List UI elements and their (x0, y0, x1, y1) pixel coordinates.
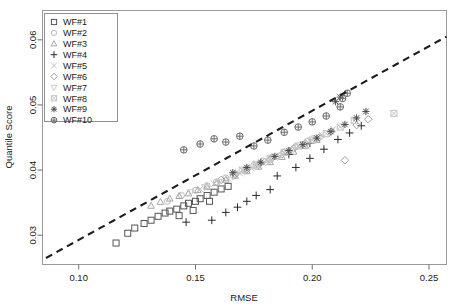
y-tick-label: 0.05 (27, 96, 38, 115)
legend: WF#1WF#2WF#3WF#4WF#5WF#6WF#7WF#8WF#9WF#1… (45, 14, 118, 126)
x-tick-label: 0.25 (420, 272, 439, 283)
data-point (257, 159, 264, 166)
series-wf4 (182, 122, 365, 226)
legend-label: WF#7 (63, 83, 87, 93)
data-point (211, 189, 217, 195)
y-axis-ticks (38, 40, 43, 235)
data-point (190, 207, 196, 213)
y-tick-label: 0.06 (27, 31, 38, 50)
data-point (243, 197, 251, 205)
data-point (218, 186, 224, 192)
data-point (211, 136, 218, 143)
data-point (208, 216, 216, 224)
data-point (225, 183, 231, 189)
data-point (391, 110, 397, 116)
data-point (176, 213, 182, 219)
data-points-layer (113, 90, 397, 246)
data-point (266, 186, 274, 194)
legend-label: WF#1 (63, 17, 87, 27)
data-point (243, 164, 250, 171)
x-axis-tick-labels: 0.100.150.200.25 (69, 272, 438, 283)
x-tick-label: 0.10 (69, 272, 88, 283)
data-point (252, 192, 260, 200)
data-point (141, 220, 147, 226)
data-point (337, 104, 344, 111)
data-point (271, 153, 278, 160)
data-point (222, 208, 230, 216)
scatter-plot: 0.100.150.200.25 0.030.040.050.06 RMSE Q… (0, 0, 463, 308)
y-tick-label: 0.04 (27, 161, 38, 180)
data-point (125, 230, 131, 236)
data-point (285, 147, 292, 154)
x-tick-label: 0.15 (186, 272, 205, 283)
chart-container: 0.100.150.200.25 0.030.040.050.06 RMSE Q… (0, 0, 463, 308)
legend-label: WF#6 (63, 72, 87, 82)
data-point (157, 198, 164, 204)
data-point (309, 119, 316, 126)
legend-label: WF#9 (63, 104, 87, 114)
data-point (273, 172, 281, 180)
data-point (295, 124, 302, 131)
data-point (265, 137, 272, 144)
series-wf9 (229, 94, 369, 177)
y-axis-tick-labels: 0.030.040.050.06 (27, 31, 38, 245)
legend-label: WF#5 (63, 61, 87, 71)
legend-marker-wf10 (51, 117, 57, 123)
data-point (313, 135, 320, 142)
series-wf10 (180, 90, 350, 153)
data-point (237, 133, 244, 140)
legend-label: WF#8 (63, 94, 87, 104)
data-point (341, 157, 349, 165)
data-point (148, 217, 154, 223)
data-point (320, 145, 328, 153)
data-point (229, 169, 236, 176)
data-point (148, 202, 155, 208)
data-point (155, 213, 161, 219)
data-point (182, 218, 190, 226)
data-point (353, 114, 360, 121)
legend-label: WF#10 (63, 115, 92, 125)
x-tick-label: 0.20 (303, 272, 322, 283)
data-point (251, 143, 258, 150)
data-point (180, 147, 187, 154)
legend-label: WF#2 (63, 28, 87, 38)
data-point (362, 108, 369, 115)
data-point (234, 203, 242, 211)
legend-label: WF#4 (63, 50, 87, 60)
data-point (306, 154, 314, 162)
data-point (327, 128, 334, 135)
data-point (223, 139, 230, 146)
data-point (323, 113, 330, 120)
data-point (281, 129, 288, 136)
legend-label: WF#3 (63, 39, 87, 49)
legend-marker-wf9 (51, 106, 57, 112)
data-point (365, 116, 373, 124)
data-point (346, 129, 354, 137)
data-point (197, 141, 204, 148)
series-wf1 (113, 183, 231, 246)
data-point (334, 136, 342, 144)
data-point (113, 240, 119, 246)
y-axis-title: Quantile Score (3, 106, 14, 169)
data-point (292, 164, 300, 172)
x-axis-ticks (79, 265, 429, 270)
data-point (132, 225, 138, 231)
y-tick-label: 0.03 (27, 226, 38, 245)
data-point (174, 206, 180, 212)
data-point (341, 121, 348, 128)
data-point (204, 192, 210, 198)
x-axis-title: RMSE (230, 292, 257, 303)
data-point (206, 198, 212, 204)
data-point (299, 141, 306, 148)
